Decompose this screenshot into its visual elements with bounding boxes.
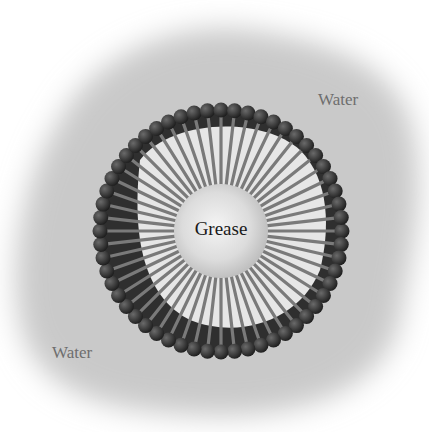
head-group xyxy=(214,103,229,118)
water-label-top-right: Water xyxy=(318,90,358,110)
micelle-figure: Water Water Grease xyxy=(0,0,429,432)
head-group xyxy=(214,345,229,360)
head-group xyxy=(187,341,202,356)
head-group xyxy=(200,103,215,118)
grease-label: Grease xyxy=(0,218,429,240)
head-group xyxy=(187,106,202,121)
water-label-bottom-left: Water xyxy=(52,343,92,363)
head-group xyxy=(240,106,255,121)
head-group xyxy=(331,250,346,265)
head-group xyxy=(240,341,255,356)
head-group xyxy=(253,338,268,353)
head-group xyxy=(200,344,215,359)
head-group xyxy=(328,184,343,199)
head-group xyxy=(227,344,242,359)
head-group xyxy=(96,197,111,212)
micelle-illustration xyxy=(0,0,429,432)
head-group xyxy=(227,103,242,118)
head-group xyxy=(99,263,114,278)
head-group xyxy=(174,109,189,124)
head-group xyxy=(331,197,346,212)
head-group xyxy=(96,250,111,265)
